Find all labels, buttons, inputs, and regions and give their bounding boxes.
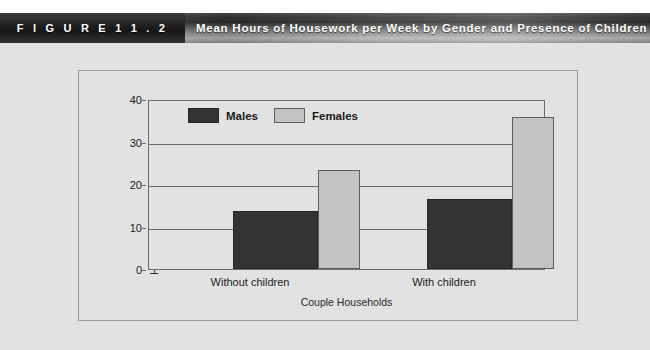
x-category-label-without-children: Without children (170, 276, 330, 288)
legend-label-males: Males (226, 110, 258, 122)
plot-area (148, 100, 545, 270)
y-axis: 40 30 20 10 0 Hours per week (112, 100, 142, 270)
bar-males-with-children[interactable] (427, 199, 512, 269)
y-tick-label-40: 40 (116, 94, 142, 106)
bar-females-without-children[interactable] (318, 170, 360, 269)
legend-item-males[interactable]: Males (188, 108, 258, 123)
y-tick-mark-0 (142, 270, 146, 271)
gridline-30 (149, 144, 544, 145)
chart-legend: Males Females (188, 108, 358, 123)
y-tick-mark-40 (142, 100, 146, 101)
figure-page: F I G U R E 1 1 . 2 Mean Hours of Housew… (0, 0, 650, 350)
y-tick-mark-20 (142, 185, 146, 186)
bar-females-with-children[interactable] (512, 117, 554, 269)
y-tick-mark-10 (142, 228, 146, 229)
y-tick-mark-30 (142, 143, 146, 144)
figure-number-tab: F I G U R E 1 1 . 2 (0, 13, 185, 43)
y-tick-label-30: 30 (116, 137, 142, 149)
legend-swatch-males-icon (188, 108, 219, 123)
bar-males-without-children[interactable] (233, 211, 318, 269)
y-tick-label-20: 20 (116, 179, 142, 191)
figure-title: Mean Hours of Housework per Week by Gend… (196, 13, 646, 43)
y-tick-label-0: 0 (116, 264, 142, 276)
figure-number-label: F I G U R E 1 1 . 2 (17, 22, 168, 34)
legend-swatch-females-icon (274, 108, 305, 123)
x-axis-title: Couple Households (148, 296, 545, 308)
legend-item-females[interactable]: Females (274, 108, 358, 123)
legend-label-females: Females (312, 110, 358, 122)
y-tick-label-10: 10 (116, 222, 142, 234)
x-category-label-with-children: With children (364, 276, 524, 288)
